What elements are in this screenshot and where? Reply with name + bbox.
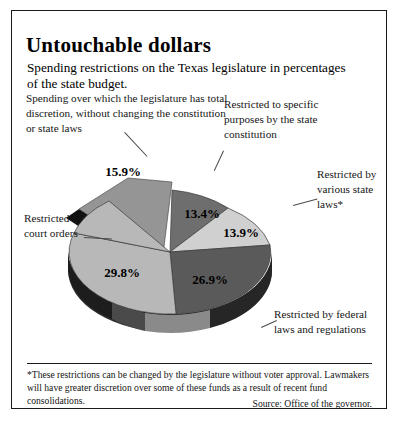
slice-label-constitution: 13.4% [184,206,220,221]
slice-label-federal: 26.9% [192,272,228,287]
slice-label-various-laws: 13.9% [223,225,259,240]
footnote-divider [27,363,372,364]
annotation-various-state-laws: Restricted by various state laws* [317,167,400,212]
slice-label-discretion: 15.9% [105,164,141,179]
page-title: Untouchable dollars [26,34,211,56]
infographic-frame: Untouchable dollars Spending restriction… [11,10,387,409]
source-divider [27,408,372,409]
annotation-court-orders: Restricted by court orders [24,211,104,241]
pie-top-faces [69,190,271,314]
pie-chart: 15.9% 13.4% 13.9% 26.9% 29.8% [50,129,300,354]
page-subtitle: Spending restrictions on the Texas legis… [27,60,357,92]
annotation-federal: Restricted by federal laws and regulatio… [274,307,382,337]
annotation-discretion: Spending over which the legislature has … [26,91,236,136]
infographic-page: Untouchable dollars Spending restriction… [0,0,400,421]
slice-label-court-orders: 29.8% [104,265,140,280]
annotation-constitution: Restricted to specific purposes by the s… [224,97,328,142]
